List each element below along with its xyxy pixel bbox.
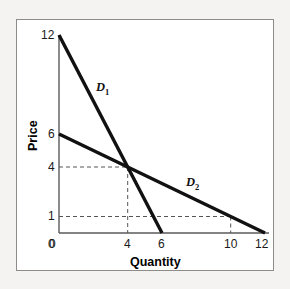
x-tick-label-0: 0	[49, 238, 56, 250]
chart-screenshot: 12 6 4 1 0 0 4 6 10 12 Price Quantity D1…	[0, 0, 290, 289]
y-axis-title: Price	[27, 120, 40, 151]
x-tick-label-4: 4	[124, 238, 131, 250]
curve-label-d1: D1	[96, 81, 109, 96]
y-tick-label-12: 12	[41, 29, 54, 41]
curve-label-d1-sub: 1	[105, 87, 109, 97]
x-tick-label-12: 12	[255, 238, 268, 250]
curve-label-d2: D2	[186, 176, 199, 191]
y-tick-label-6: 6	[48, 128, 55, 140]
x-tick-label-10: 10	[224, 238, 237, 250]
x-tick-label-6: 6	[158, 238, 165, 250]
x-axis-title: Quantity	[130, 256, 181, 269]
y-tick-label-1: 1	[48, 210, 55, 222]
demand-curve-d2	[59, 134, 265, 233]
curve-label-d2-base: D	[186, 175, 195, 189]
demand-curve-d1	[59, 35, 162, 233]
curve-label-d2-sub: 2	[195, 182, 199, 192]
curve-label-d1-base: D	[96, 80, 105, 94]
y-tick-label-4: 4	[48, 161, 55, 173]
figure-frame: 12 6 4 1 0 0 4 6 10 12 Price Quantity D1…	[16, 19, 274, 271]
demand-curve-plot	[17, 20, 273, 270]
